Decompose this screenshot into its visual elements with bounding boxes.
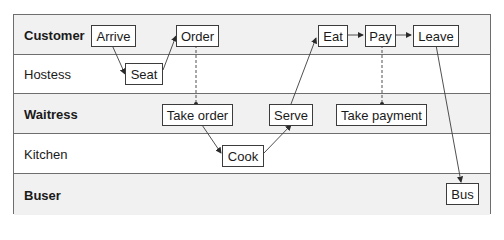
lane-hostess: Hostess [14,55,490,94]
node-order: Order [176,25,219,47]
lane-label-kitchen: Kitchen [24,146,67,161]
node-eat: Eat [318,25,348,47]
lane-buser: Buser [14,174,490,215]
node-bus: Bus [446,183,479,205]
lane-label-customer: Customer [24,27,85,42]
node-leave: Leave [413,25,459,47]
node-seat: Seat [125,63,163,85]
node-arrive: Arrive [91,25,136,47]
node-take-payment: Take payment [336,104,427,126]
lane-label-buser: Buser [24,187,61,202]
node-serve: Serve [269,104,313,126]
node-pay: Pay [365,25,396,47]
node-cook: Cook [222,145,264,167]
lane-label-hostess: Hostess [24,67,71,82]
node-take-order: Take order [162,104,233,126]
lane-label-waitress: Waitress [24,106,78,121]
